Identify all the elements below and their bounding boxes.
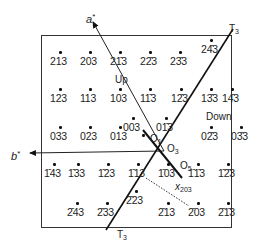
reflection-label: 213 [50, 56, 67, 67]
reflection-dot [107, 163, 110, 166]
reflection-label: 113 [80, 93, 96, 104]
reflection-label: 2̄03 [188, 207, 205, 218]
reflection-label: 23̄3 [170, 56, 187, 67]
x203-label: x203 [175, 182, 192, 193]
reflection-dot [210, 126, 213, 129]
reflection-label: 1̄13 [128, 168, 145, 179]
b-star-axis [30, 151, 164, 153]
reflection-dot [119, 88, 122, 91]
reflection-label: 1̄03 [158, 168, 175, 179]
reflection-label: 1̄33 [68, 168, 85, 179]
reflection-label: 2̄33 [97, 207, 114, 218]
origin-o3-label: O3 [167, 144, 179, 155]
region-down-label: Down [206, 112, 232, 122]
reflection-dot [227, 163, 230, 166]
reflection-dot [149, 88, 152, 91]
reflection-dot [59, 51, 62, 54]
reflection-dot [167, 202, 170, 205]
reflection-label: 11̄3 [140, 93, 156, 104]
twin-plane-label-bottom: T3 [117, 230, 127, 241]
origin-o1-label: O1 [150, 134, 162, 145]
reflection-label: 1̄23 [98, 168, 115, 179]
twin-plane-label-top: T3 [229, 24, 239, 35]
reflection-label: 103 [110, 93, 127, 104]
reflection-label: 2̄1̄3 [218, 207, 235, 218]
reflection-label: 13̄3 [201, 93, 218, 104]
reflection-dot [197, 163, 200, 166]
reflection-label: 123 [50, 93, 67, 104]
reflection-label: 023 [80, 131, 97, 142]
reflection-dot [59, 88, 62, 91]
reflection-dot [197, 202, 200, 205]
reflection-dot [165, 117, 168, 120]
reflection-label: 013 [110, 131, 127, 142]
reflection-dot [210, 88, 213, 91]
reflection-label: 21̄3 [110, 56, 127, 67]
reflection-dot [210, 39, 213, 42]
reflection-label: 1̄2̄3 [218, 168, 235, 179]
reflection-label: 2̄13 [158, 207, 175, 218]
reflection-label: 1̄1̄3 [188, 168, 205, 179]
reflection-dot [59, 126, 62, 129]
reflection-dot [167, 163, 170, 166]
reflection-dot [119, 126, 122, 129]
reflection-dot [89, 51, 92, 54]
reflection-label: 1̄43 [44, 168, 61, 179]
reflection-label: 203 [80, 56, 97, 67]
reciprocal-lattice-diagram: a* b* T3 T3 Up Down O1 O3 O5 x203 213203… [0, 0, 255, 249]
reflection-dot [137, 163, 140, 166]
reflection-dot [76, 202, 79, 205]
reflection-label: 2̄23 [126, 195, 143, 206]
reflection-label: 03̄3 [231, 131, 248, 142]
reflection-dot [89, 126, 92, 129]
reflection-label: 14̄3 [222, 93, 239, 104]
reflection-dot [53, 163, 56, 166]
reflection-label: 22̄3 [140, 56, 157, 67]
reflection-dot [231, 88, 234, 91]
b-star-label: b* [11, 150, 20, 162]
reflection-dot [77, 163, 80, 166]
reflection-label: 033 [50, 131, 67, 142]
reflection-dot [227, 202, 230, 205]
reflection-dot [135, 190, 138, 193]
reflection-label: 02̄3 [201, 131, 218, 142]
reflection-dot [119, 51, 122, 54]
reflection-dot [132, 117, 135, 120]
reflection-label: 12̄3 [171, 93, 188, 104]
reflection-label: 01̄3 [156, 122, 173, 133]
a-star-label: a* [86, 13, 95, 25]
reflection-dot [106, 202, 109, 205]
reflection-dot [149, 51, 152, 54]
reflection-dot [179, 51, 182, 54]
region-up-label: Up [115, 75, 128, 85]
reflection-label: 24̄3 [201, 44, 218, 55]
reflection-dot [180, 88, 183, 91]
reflection-label: 2̄43 [67, 207, 84, 218]
origin-o1-dot [142, 134, 145, 137]
reflection-dot [240, 126, 243, 129]
reflection-dot [89, 88, 92, 91]
